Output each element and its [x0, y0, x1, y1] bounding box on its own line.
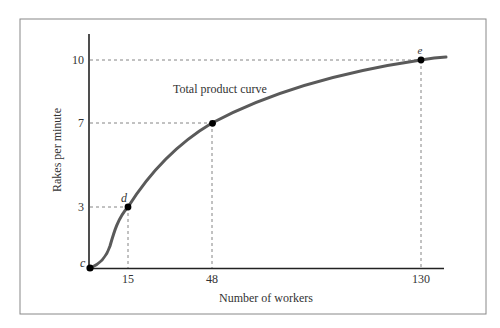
point-c: [86, 264, 93, 271]
x-tick-130: 130: [412, 272, 430, 286]
point-c-label: c: [80, 256, 86, 270]
y-tick-7: 7: [78, 116, 84, 130]
total-product-chart: c d e Total product curve 10 7 3 15 48 1…: [0, 0, 500, 328]
y-tick-3: 3: [78, 200, 84, 214]
x-tick-15: 15: [122, 272, 134, 286]
total-product-curve: [90, 57, 446, 268]
x-tick-48: 48: [206, 272, 218, 286]
x-axis-title: Number of workers: [219, 291, 313, 305]
curve-label: Total product curve: [173, 82, 267, 96]
point-d-label: d: [121, 191, 128, 205]
point-e: [418, 57, 425, 64]
point-48: [209, 120, 216, 127]
y-tick-10: 10: [72, 53, 84, 67]
y-axis-title: Rakes per minute: [50, 108, 64, 192]
point-e-label: e: [418, 44, 423, 56]
